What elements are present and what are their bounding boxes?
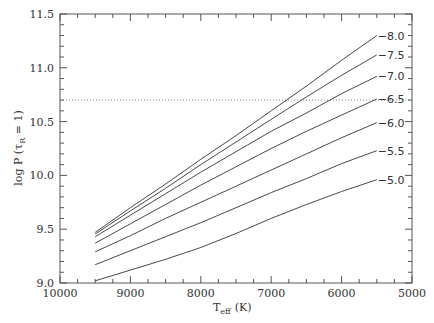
- y-axis-title: log P (τR = 1): [12, 110, 27, 186]
- curves: [95, 36, 377, 281]
- curve--7.5: [95, 55, 377, 234]
- y-tick-label: 11.0: [30, 62, 55, 75]
- y-tick-label: 10.5: [30, 116, 55, 129]
- y-tick-label: 9.0: [37, 277, 55, 290]
- x-tick-label: 8000: [187, 287, 215, 300]
- x-tick-label: 6000: [328, 287, 356, 300]
- curve-label: −7.0: [378, 70, 405, 83]
- curve--5.5: [95, 151, 377, 265]
- y-tick-label: 9.5: [37, 223, 55, 236]
- curve-label: −5.5: [378, 145, 405, 158]
- curve-label: −6.5: [378, 93, 405, 106]
- plot-border: [60, 14, 412, 283]
- curve-label: −5.0: [378, 174, 405, 187]
- x-tick-label: 9000: [116, 287, 144, 300]
- y-tick-label: 11.5: [30, 8, 55, 21]
- curve-labels: −8.0−7.5−7.0−6.5−6.0−5.5−5.0: [378, 30, 405, 187]
- y-tick-label: 10.0: [30, 169, 55, 182]
- curve--6.5: [95, 99, 377, 243]
- curve-label: −6.0: [378, 117, 405, 130]
- curve--7.0: [95, 76, 377, 236]
- x-tick-label: 7000: [257, 287, 285, 300]
- curve-label: −7.5: [378, 49, 405, 62]
- x-tick-label: 5000: [398, 287, 426, 300]
- curve--8.0: [95, 36, 377, 233]
- plot-frame: [60, 14, 412, 283]
- x-axis-title: Teff(K): [213, 301, 252, 316]
- curve-label: −8.0: [378, 30, 405, 43]
- axis-ticks: [60, 14, 412, 283]
- line-chart: 10000900080007000600050009.09.510.010.51…: [0, 0, 434, 323]
- curve--5.0: [95, 180, 377, 281]
